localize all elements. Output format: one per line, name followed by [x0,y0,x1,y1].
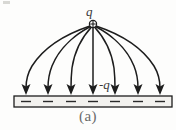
field-line-3 [71,27,92,88]
field-line-1 [26,26,90,88]
field-lines-group [26,26,160,88]
electric-field-figure: q -q (a) [0,0,176,130]
point-charge-marker [89,20,96,27]
plate-charge-label: -q [99,78,110,91]
point-charge-label: q [86,5,93,18]
figure-caption: (a) [0,108,176,125]
charged-plate [14,96,172,107]
